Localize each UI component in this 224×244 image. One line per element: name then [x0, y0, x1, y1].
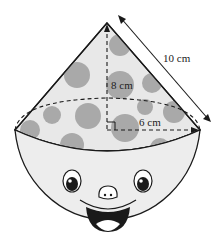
height-label: 8 cm [111, 79, 133, 91]
nose-icon [99, 186, 117, 199]
cone-hemisphere-diagram: 10 cm 8 cm 6 cm [0, 0, 224, 244]
diagram-canvas: 10 cm 8 cm 6 cm [0, 0, 224, 244]
radius-label: 6 cm [139, 116, 161, 128]
slant-label: 10 cm [163, 52, 191, 64]
